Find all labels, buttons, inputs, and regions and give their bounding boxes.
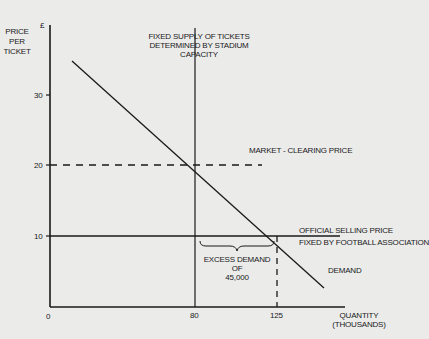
excess-demand-annotation: EXCESS DEMAND OF 45,000 (200, 255, 274, 282)
x-axis-label-line: (THOUSANDS) (330, 320, 388, 329)
y-tick-label-20: 20 (34, 161, 43, 170)
x-axis-label: QUANTITY (THOUSANDS) (330, 311, 388, 329)
demand-annotation: DEMAND (328, 266, 361, 275)
excess-demand-annotation-line: EXCESS DEMAND (200, 255, 274, 264)
excess-demand-brace (200, 241, 274, 251)
x-tick-label-125: 125 (270, 311, 283, 320)
supply-annotation-line: CAPACITY (143, 50, 255, 59)
supply-annotation: FIXED SUPPLY OF TICKETS DETERMINED BY ST… (143, 32, 255, 59)
currency-symbol: £ (40, 21, 44, 30)
official-price-annotation: OFFICIAL SELLING PRICE FIXED BY FOOTBALL… (299, 225, 429, 249)
x-tick-label-0: 0 (46, 312, 50, 321)
supply-annotation-line: DETERMINED BY STADIUM (143, 41, 255, 50)
x-tick-label-80: 80 (190, 311, 199, 320)
demand-line (72, 61, 324, 288)
excess-demand-annotation-line: OF (200, 264, 274, 273)
y-axis-label: PRICE PER TICKET (2, 27, 32, 57)
market-clearing-annotation: MARKET - CLEARING PRICE (249, 146, 352, 155)
official-price-annotation-line: OFFICIAL SELLING PRICE (299, 225, 429, 237)
y-axis-label-line: TICKET (2, 47, 32, 57)
excess-demand-annotation-line: 45,000 (200, 273, 274, 282)
y-tick-label-30: 30 (34, 91, 43, 100)
y-tick-label-10: 10 (34, 232, 43, 241)
supply-annotation-line: FIXED SUPPLY OF TICKETS (143, 32, 255, 41)
y-axis-label-line: PER (2, 37, 32, 47)
x-axis-label-line: QUANTITY (330, 311, 388, 320)
y-axis-label-line: PRICE (2, 27, 32, 37)
official-price-annotation-line: FIXED BY FOOTBALL ASSOCIATION (299, 237, 429, 249)
